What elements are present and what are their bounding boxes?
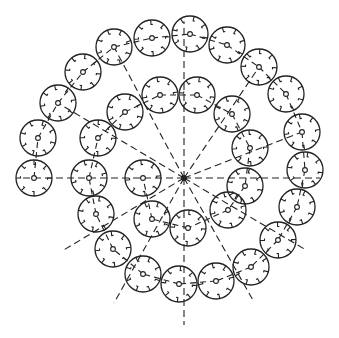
pivot-dot <box>141 272 146 277</box>
toothed-circle <box>20 120 56 156</box>
pivot-dot <box>226 208 231 213</box>
toothed-circle <box>260 222 296 258</box>
pivot-dot <box>123 110 128 115</box>
center-hub <box>181 175 187 181</box>
diagram-canvas <box>0 0 339 338</box>
toothed-circle <box>232 130 268 166</box>
pivot-dot <box>32 176 37 181</box>
pivot-dot <box>295 205 300 210</box>
pivot-dot <box>111 247 116 252</box>
pivot-dot <box>112 45 117 50</box>
hub-dot <box>181 175 187 181</box>
toothed-circle <box>16 160 52 196</box>
pivot-dot <box>150 36 155 41</box>
pivot-dot <box>195 93 200 98</box>
toothed-circle <box>241 49 277 85</box>
toothed-circle <box>142 77 178 113</box>
pivot-dot <box>249 265 254 270</box>
pivot-dot <box>186 226 191 231</box>
toothed-circle <box>214 96 250 132</box>
toothed-circles <box>16 16 323 302</box>
toothed-circle <box>210 192 246 228</box>
pivot-dot <box>177 282 182 287</box>
pivot-dot <box>141 176 146 181</box>
pivot-dot <box>248 146 253 151</box>
toothed-circle <box>71 160 107 196</box>
pivot-dot <box>188 32 193 37</box>
pivot-dot <box>300 130 305 135</box>
toothed-circle <box>209 27 245 63</box>
pivot-dot <box>150 217 155 222</box>
pivot-dot <box>214 279 219 284</box>
pivot-dot <box>87 176 92 181</box>
toothed-circle <box>233 249 269 285</box>
toothed-circle <box>96 29 132 65</box>
toothed-circle <box>287 152 323 188</box>
pivot-dot <box>81 70 86 75</box>
toothed-circle <box>179 77 215 113</box>
pivot-dot <box>56 101 61 106</box>
toothed-circle <box>268 76 304 112</box>
toothed-circle <box>279 189 315 225</box>
pivot-dot <box>36 136 41 141</box>
toothed-circle <box>40 85 76 121</box>
toothed-circle <box>134 20 170 56</box>
toothed-circle <box>134 201 170 237</box>
toothed-circle <box>65 54 101 90</box>
toothed-circle <box>78 196 114 232</box>
spiral-gear-diagram <box>0 0 339 338</box>
pivot-dot <box>94 212 99 217</box>
pivot-dot <box>257 65 262 70</box>
toothed-circle <box>125 256 161 292</box>
pivot-dot <box>158 93 163 98</box>
toothed-circle <box>170 210 206 246</box>
pivot-dot <box>243 184 248 189</box>
toothed-circle <box>107 94 143 130</box>
pivot-dot <box>96 136 101 141</box>
toothed-circle <box>95 231 131 267</box>
pivot-dot <box>276 238 281 243</box>
toothed-circle <box>161 266 197 302</box>
pivot-dot <box>230 112 235 117</box>
toothed-circle <box>172 16 208 52</box>
pivot-dot <box>284 92 289 97</box>
toothed-circle <box>284 114 320 150</box>
pivot-dot <box>225 43 230 48</box>
pivot-dot <box>303 168 308 173</box>
toothed-circle <box>80 120 116 156</box>
toothed-circle <box>198 263 234 299</box>
toothed-circle <box>125 160 161 196</box>
